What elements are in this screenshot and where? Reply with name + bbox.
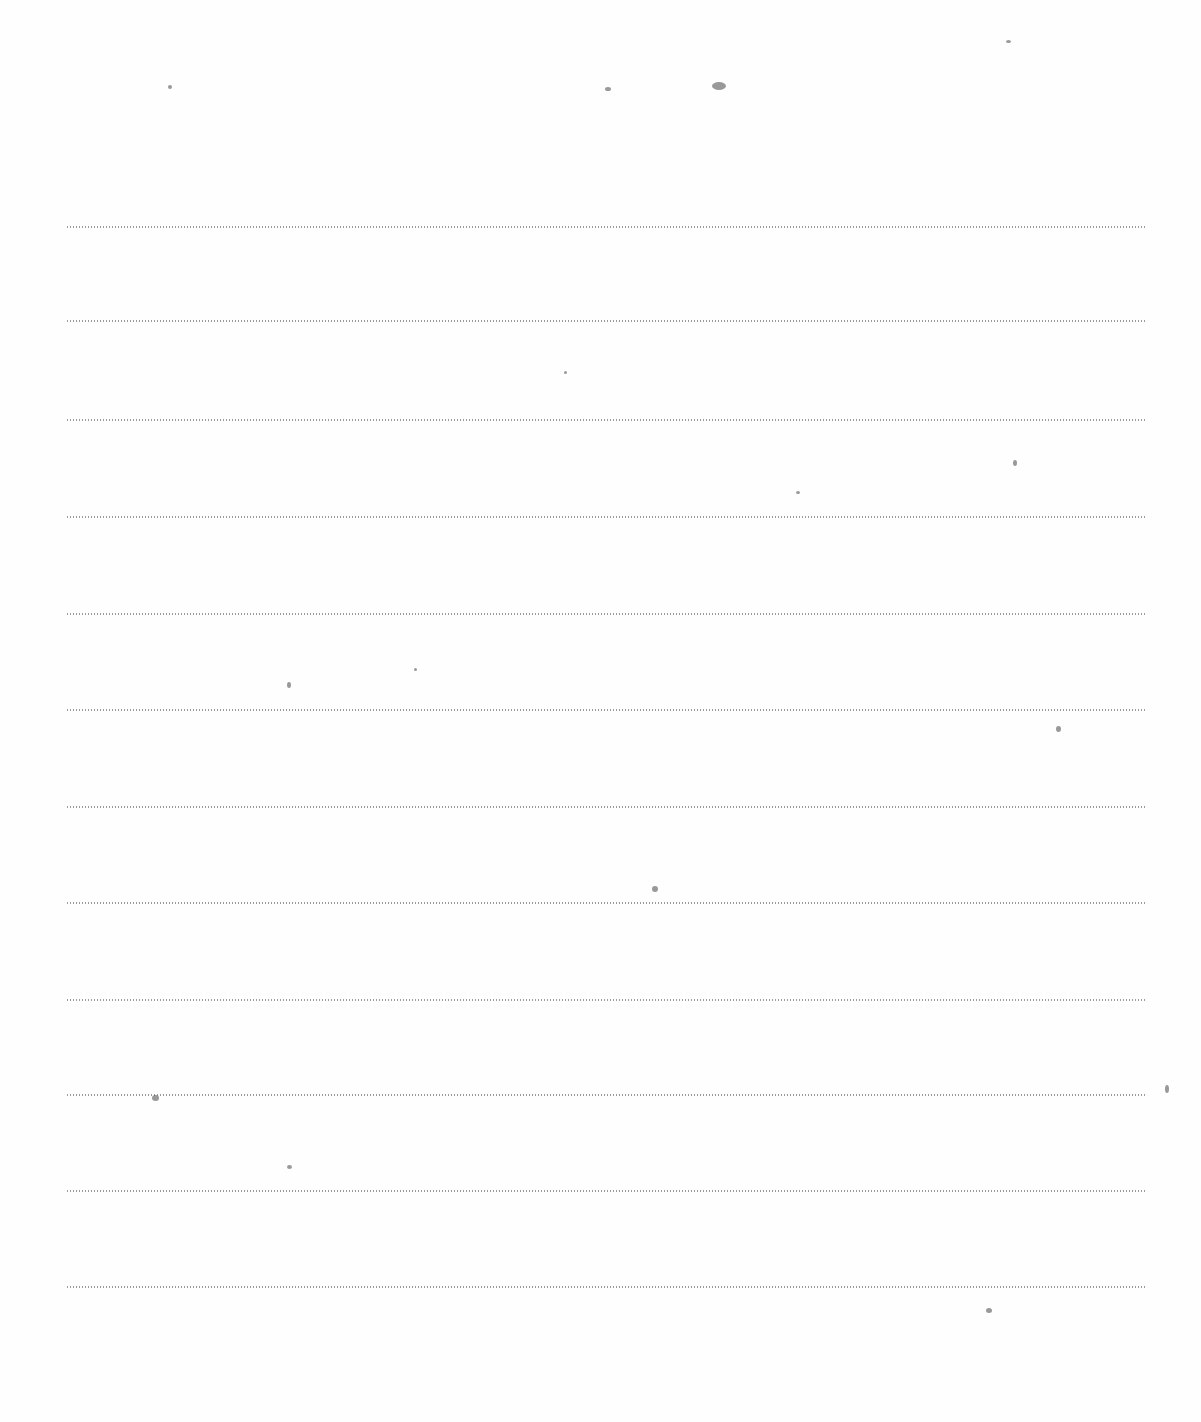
ruled-line-4: [66, 516, 1146, 518]
scan-speck: [564, 371, 567, 374]
scan-speck: [1056, 726, 1061, 732]
scan-speck: [605, 87, 611, 91]
ruled-line-7: [66, 806, 1146, 808]
ruled-line-3: [66, 419, 1146, 421]
scan-speck: [712, 82, 726, 90]
blank-lined-page: [0, 0, 1201, 1422]
ruled-line-2: [66, 320, 1146, 322]
scan-speck: [287, 682, 291, 688]
ruled-line-9: [66, 999, 1146, 1001]
scan-speck: [152, 1095, 159, 1101]
ruled-line-12: [66, 1286, 1146, 1288]
scan-speck: [287, 1165, 292, 1169]
scan-speck: [1165, 1085, 1169, 1093]
scan-speck: [414, 668, 417, 671]
ruled-line-6: [66, 709, 1146, 711]
ruled-line-10: [66, 1094, 1146, 1096]
scan-speck: [1013, 460, 1017, 466]
scan-speck: [796, 491, 800, 494]
ruled-line-5: [66, 613, 1146, 615]
scan-speck: [168, 85, 172, 89]
scan-speck: [986, 1308, 992, 1313]
ruled-line-1: [66, 226, 1146, 228]
ruled-line-11: [66, 1190, 1146, 1192]
scan-speck: [652, 886, 658, 892]
scan-speck: [1006, 40, 1011, 43]
ruled-line-8: [66, 902, 1146, 904]
